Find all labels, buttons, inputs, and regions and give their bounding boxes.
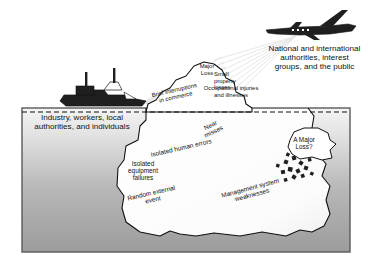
label-occupational-injuries: Occupational injuries and illnesses (200, 85, 262, 98)
diagram-artwork (0, 0, 384, 266)
airplane-icon (266, 10, 356, 40)
diagram-canvas: Industry, workers, local authorities, an… (0, 0, 384, 266)
label-authorities: National and international authorities, … (252, 44, 377, 71)
label-industry: Industry, workers, local authorities, an… (22, 113, 142, 131)
label-isolated-equipment-failures: Isolated equipment failures (113, 160, 173, 182)
ship-icon (60, 68, 146, 106)
label-a-major-loss: A Major Loss? (283, 136, 325, 150)
